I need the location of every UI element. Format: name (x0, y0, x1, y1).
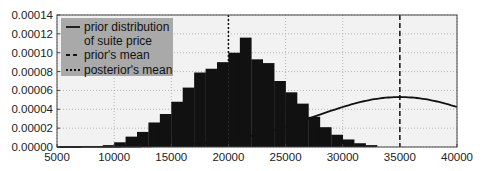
legend-label-prior: prior distribution (84, 20, 169, 34)
y-tick-label: 0.00004 (11, 103, 53, 115)
histogram-bar (137, 132, 149, 147)
histogram-bar (286, 92, 298, 147)
y-tick-label: 0.00002 (11, 122, 53, 134)
histogram-bar (240, 38, 252, 147)
y-tick-label: 0.00000 (11, 141, 53, 153)
legend-label-posterior-mean: posterior's mean (84, 63, 172, 77)
histogram-bar (148, 122, 160, 147)
histogram-bar (206, 69, 218, 147)
x-tick-label: 40000 (441, 151, 473, 163)
histogram-bar (343, 139, 355, 147)
histogram-bar (331, 135, 343, 147)
x-tick-label: 20000 (212, 151, 244, 163)
x-tick-label: 15000 (155, 151, 187, 163)
histogram-bar (217, 62, 229, 147)
y-tick-label: 0.00008 (11, 66, 53, 78)
x-tick-label: 35000 (384, 151, 416, 163)
histogram-bar (354, 143, 366, 147)
x-tick-label: 10000 (98, 151, 130, 163)
x-tick-label: 25000 (270, 151, 302, 163)
histogram-bar (228, 53, 240, 147)
histogram-bar (194, 73, 206, 147)
histogram-bar (160, 114, 172, 147)
histogram-bar (126, 137, 138, 147)
histogram-bar (297, 104, 309, 147)
y-axis-ticks: 0.000000.000020.000040.000060.000080.000… (11, 9, 60, 153)
y-tick-label: 0.00014 (11, 9, 53, 21)
histogram-bar (274, 81, 286, 147)
legend: prior distribution of suite price prior'… (61, 18, 173, 77)
chart: 500010000150002000025000300003500040000 … (0, 0, 486, 171)
histogram-bar (171, 102, 183, 147)
histogram-bar (308, 117, 320, 147)
x-tick-label: 30000 (327, 151, 359, 163)
y-tick-label: 0.00006 (11, 84, 53, 96)
histogram-bar (320, 127, 332, 147)
histogram-bar (263, 63, 275, 147)
legend-label-prior-mean: prior's mean (84, 48, 150, 62)
y-tick-label: 0.00010 (11, 47, 53, 59)
histogram-bar (183, 88, 195, 147)
legend-label-prior-2: of suite price (84, 34, 152, 48)
y-tick-label: 0.00012 (11, 28, 53, 40)
